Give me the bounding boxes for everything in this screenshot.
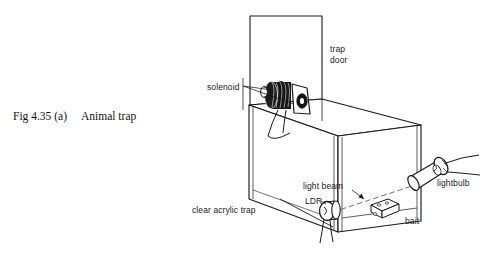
label-trap-door-line2: door (330, 55, 347, 66)
label-trap-door-line1: trap (330, 44, 347, 55)
caption-number: Fig 4.35 (a) (13, 110, 67, 122)
label-light-beam: light beam (303, 181, 343, 192)
label-lightbulb: lightbulb (437, 178, 470, 189)
label-ldr: LDR (305, 196, 322, 207)
caption-title: Animal trap (81, 110, 136, 122)
label-bait: bait (405, 216, 419, 227)
label-solenoid: solenoid (207, 82, 239, 93)
figure-caption: Fig 4.35 (a)Animal trap (13, 110, 136, 122)
label-clear-acrylic-trap: clear acrylic trap (192, 205, 256, 216)
label-trap-door: trap door (330, 44, 347, 65)
figure-page: Fig 4.35 (a)Animal trap trap door soleno… (0, 0, 484, 253)
